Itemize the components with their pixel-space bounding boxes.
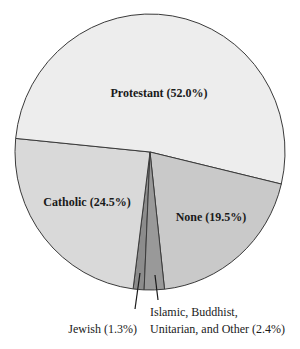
other-label-line2: Unitarian, and Other (2.4%) <box>150 322 285 336</box>
catholic-label: Catholic (24.5%) <box>43 195 130 209</box>
pie-slices <box>15 14 285 290</box>
jewish-label: Jewish (1.3%) <box>68 322 137 336</box>
religion-pie-chart: Protestant (52.0%) Catholic (24.5%) None… <box>0 0 300 349</box>
protestant-label: Protestant (52.0%) <box>110 86 207 100</box>
slice-catholic <box>15 138 150 289</box>
none-label: None (19.5%) <box>176 210 247 224</box>
other-label-line1: Islamic, Buddhist, <box>150 305 238 319</box>
